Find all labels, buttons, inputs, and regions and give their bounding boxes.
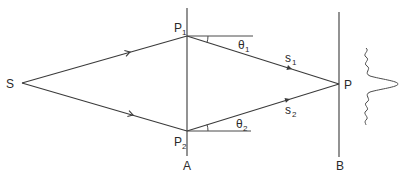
label-p1: P (174, 21, 182, 35)
label-b: B (336, 159, 344, 173)
label-p2: P (174, 135, 182, 149)
ray-p1-p (187, 36, 339, 84)
label-p2-sub: 2 (182, 142, 187, 151)
label-s1-sub: 1 (292, 58, 297, 67)
interference-diagram: S P 1 P 2 P A B θ 1 θ 2 s 1 s 2 (0, 0, 410, 181)
label-s1: s (285, 51, 291, 65)
label-p: P (344, 78, 352, 92)
label-theta2: θ (236, 117, 243, 131)
ray-s-p1 (22, 36, 187, 83)
ray-p2-p (187, 84, 339, 131)
angle-arc-theta2 (207, 125, 208, 132)
label-theta2-sub: 2 (243, 124, 248, 133)
label-a: A (183, 159, 191, 173)
ray-s-p2 (22, 83, 187, 131)
label-s2: s (285, 103, 291, 117)
angle-arc-theta1 (207, 36, 208, 43)
label-p1-sub: 1 (182, 28, 187, 37)
intensity-pattern-curve (365, 48, 398, 125)
label-s: S (6, 77, 14, 91)
label-theta1: θ (238, 38, 245, 52)
label-s2-sub: 2 (292, 110, 297, 119)
label-theta1-sub: 1 (245, 45, 250, 54)
